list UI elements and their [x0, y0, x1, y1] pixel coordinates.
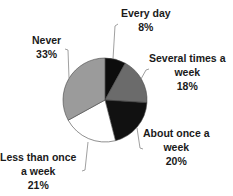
label-less-than-once-pct: 21%	[0, 178, 76, 192]
leader-every-day	[113, 24, 118, 59]
label-several-times-name-1: Several times a	[149, 51, 225, 65]
label-every-day: Every day 8%	[121, 6, 171, 34]
label-about-once-a-week: About once a week 20%	[143, 126, 210, 168]
label-never-name: Never	[32, 33, 61, 47]
leader-several-times	[141, 69, 149, 79]
label-about-once-name-2: week	[143, 140, 210, 154]
label-about-once-pct: 20%	[143, 154, 210, 168]
label-several-times-pct: 18%	[149, 79, 225, 93]
label-every-day-pct: 8%	[121, 20, 171, 34]
label-every-day-name: Every day	[121, 6, 171, 20]
label-less-than-once-name-1: Less than once	[0, 150, 76, 164]
pie-slices	[63, 58, 147, 142]
label-several-times-a-week: Several times a week 18%	[149, 51, 225, 93]
label-about-once-name-1: About once a	[143, 126, 210, 140]
label-never: Never 33%	[32, 33, 61, 61]
label-never-pct: 33%	[32, 47, 61, 61]
label-several-times-name-2: week	[149, 65, 225, 79]
leader-never	[65, 49, 69, 78]
label-less-than-once-a-week: Less than once a week 21%	[0, 150, 76, 192]
leader-less-than-once	[82, 142, 88, 171]
label-less-than-once-name-2: a week	[0, 164, 76, 178]
